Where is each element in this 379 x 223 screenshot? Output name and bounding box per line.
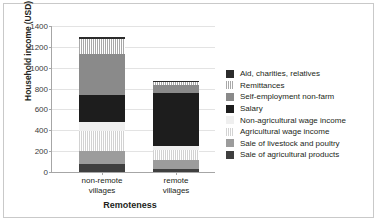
bar-remote-villages[interactable] bbox=[153, 81, 199, 172]
bar-segment bbox=[79, 164, 125, 172]
gridline bbox=[52, 47, 215, 48]
y-axis-tick-label: 1400 bbox=[30, 22, 48, 31]
bar-segment bbox=[153, 150, 199, 160]
y-axis-tick-label: 600 bbox=[35, 105, 48, 114]
y-axis-tick-label: 800 bbox=[35, 84, 48, 93]
bar-segment bbox=[79, 122, 125, 131]
bar-segment bbox=[79, 95, 125, 122]
gridline bbox=[52, 68, 215, 69]
legend-item-label: Aid, charities, relatives bbox=[240, 69, 320, 78]
y-axis-tickmark bbox=[49, 109, 52, 110]
legend-swatch-icon bbox=[226, 81, 234, 89]
y-axis-tickmark bbox=[49, 47, 52, 48]
legend-swatch-icon bbox=[226, 93, 234, 101]
bar-segment bbox=[153, 160, 199, 170]
legend-item[interactable]: Salary bbox=[226, 103, 346, 115]
x-axis-category-label: remotevillages bbox=[130, 176, 222, 196]
legend-item-label: Non-agricultural wage income bbox=[240, 116, 346, 125]
legend-item[interactable]: Remittances bbox=[226, 80, 346, 92]
bar-segment bbox=[153, 81, 199, 82]
legend-item[interactable]: Agricultural wage income bbox=[226, 126, 346, 138]
legend-swatch-icon bbox=[226, 116, 234, 124]
bar-segment bbox=[153, 82, 199, 85]
bar-segment bbox=[79, 151, 125, 164]
legend-item-label: Sale of livestock and poultry bbox=[240, 139, 340, 148]
bar-segment bbox=[79, 54, 125, 96]
legend-item[interactable]: Sale of livestock and poultry bbox=[226, 138, 346, 150]
x-axis-tickmark bbox=[176, 172, 177, 175]
legend-swatch-icon bbox=[226, 70, 234, 78]
legend-item[interactable]: Aid, charities, relatives bbox=[226, 68, 346, 80]
chart-legend: Aid, charities, relativesRemittancesSelf… bbox=[226, 68, 346, 161]
bar-segment bbox=[79, 131, 125, 151]
gridline bbox=[52, 26, 215, 27]
legend-swatch-icon bbox=[226, 128, 234, 136]
y-axis-title: Household income (USD) bbox=[23, 0, 33, 107]
legend-item-label: Agricultural wage income bbox=[240, 127, 329, 136]
bar-segment bbox=[79, 39, 125, 54]
legend-item-label: Sale of agricultural products bbox=[240, 150, 339, 159]
y-axis-tickmark bbox=[49, 151, 52, 152]
x-axis-tickmark bbox=[102, 172, 103, 175]
legend-swatch-icon bbox=[226, 151, 234, 159]
y-axis-tickmark bbox=[49, 130, 52, 131]
y-axis-tickmark bbox=[49, 26, 52, 27]
legend-item-label: Salary bbox=[240, 104, 263, 113]
legend-swatch-icon bbox=[226, 139, 234, 147]
bar-segment bbox=[153, 93, 199, 146]
plot-area: 0200400600800100012001400 non-remotevill… bbox=[51, 26, 215, 173]
legend-item-label: Remittances bbox=[240, 81, 284, 90]
legend-item-label: Self-employment non-farm bbox=[240, 92, 334, 101]
y-axis-tickmark bbox=[49, 68, 52, 69]
y-axis-tick-label: 400 bbox=[35, 126, 48, 135]
y-axis-tickmark bbox=[49, 172, 52, 173]
legend-item[interactable]: Non-agricultural wage income bbox=[226, 114, 346, 126]
bar-non-remote-villages[interactable] bbox=[79, 37, 125, 172]
y-axis-tickmark bbox=[49, 89, 52, 90]
y-axis-tick-label: 200 bbox=[35, 147, 48, 156]
chart-figure: Household income (USD) Remoteness 020040… bbox=[3, 3, 374, 218]
y-axis-tick-label: 0 bbox=[44, 168, 48, 177]
bar-segment bbox=[153, 85, 199, 93]
legend-swatch-icon bbox=[226, 105, 234, 113]
y-axis-tick-label: 1200 bbox=[30, 42, 48, 51]
legend-item[interactable]: Self-employment non-farm bbox=[226, 91, 346, 103]
legend-item[interactable]: Sale of agricultural products bbox=[226, 149, 346, 161]
y-axis-tick-label: 1000 bbox=[30, 63, 48, 72]
x-axis-title: Remoteness bbox=[44, 200, 216, 210]
bar-segment bbox=[79, 37, 125, 39]
bar-segment bbox=[153, 146, 199, 150]
